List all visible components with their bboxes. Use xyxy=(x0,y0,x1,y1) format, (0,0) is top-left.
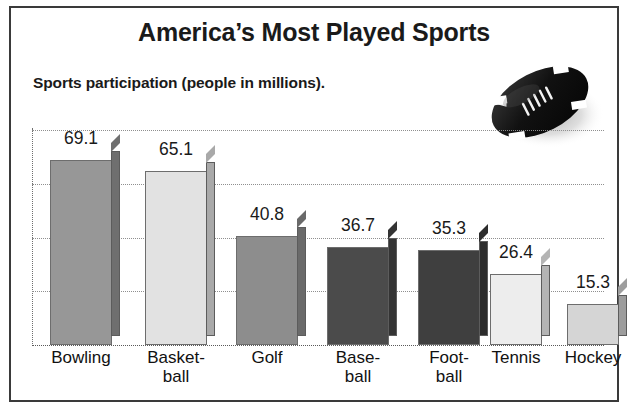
bar-value-label: 35.3 xyxy=(394,218,504,239)
bar-side-panel xyxy=(297,227,306,336)
bar-basketball[interactable] xyxy=(145,162,207,345)
category-label-line: Bowling xyxy=(26,348,136,367)
bar-golf[interactable] xyxy=(236,227,298,345)
chart-figure: America’s Most Played Sports Sports part… xyxy=(0,0,628,412)
y-axis-line xyxy=(32,128,33,346)
bar-side-panel xyxy=(388,238,397,336)
bar-value-label: 69.1 xyxy=(26,128,136,149)
bar-side-panel xyxy=(206,162,215,336)
bar-face xyxy=(327,247,389,345)
bar-bowling[interactable] xyxy=(50,151,112,345)
plot-area: 69.165.140.836.735.326.415.3 xyxy=(32,128,604,346)
bar-hockey[interactable] xyxy=(567,295,619,345)
bar-face xyxy=(490,274,542,345)
bar-value-label: 65.1 xyxy=(121,139,231,160)
axis-baseline xyxy=(32,345,604,346)
bar-face xyxy=(567,304,619,345)
bar-face xyxy=(236,236,298,345)
category-label-line: ball xyxy=(121,367,231,386)
category-label-bowling: Bowling xyxy=(26,348,136,367)
category-label-line: Hockey xyxy=(538,348,628,367)
bar-tennis[interactable] xyxy=(490,265,542,345)
chart-subtitle: Sports participation (people in millions… xyxy=(33,74,325,92)
bar-face xyxy=(50,160,112,345)
category-label-line: ball xyxy=(394,367,504,386)
bar-face xyxy=(145,171,207,345)
bar-face xyxy=(418,250,480,345)
chart-title: America’s Most Played Sports xyxy=(0,18,628,47)
bar-side-panel xyxy=(618,295,627,336)
category-label-hockey: Hockey xyxy=(538,348,628,367)
bar-side-panel xyxy=(111,151,120,336)
bar-baseball[interactable] xyxy=(327,238,389,345)
bar-value-label: 15.3 xyxy=(538,272,628,293)
category-axis-labels: BowlingBasket-ballGolfBase-ballFoot-ball… xyxy=(32,348,604,400)
bar-value-label: 26.4 xyxy=(461,242,571,263)
